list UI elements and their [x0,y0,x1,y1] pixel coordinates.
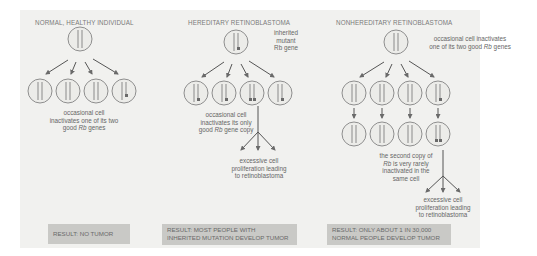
result-line: RESULT: MOST PEOPLE WITH [167,226,292,234]
label-line: inactivated in the [374,167,438,175]
hereditary-daughter-cells-icon [184,81,292,105]
normal-title: NORMAL, HEALTHY INDIVIDUAL [35,19,134,26]
result-line: RESULT: NO TUMOR [53,227,125,241]
inherited-mutant-gene-label: inherited mutant Rb gene [266,29,306,52]
label-line: inherited [266,29,306,37]
hereditary-outcome: excessive cell proliferation leading to … [226,157,292,180]
result-line: RESULT: ONLY ABOUT 1 IN 30,000 [332,226,446,234]
hereditary-title: HEREDITARY RETINOBLASTOMA [188,19,290,26]
hereditary-annotation: occasional cell inactivates its only goo… [196,111,256,134]
label-line: proliferation leading [226,165,292,173]
label-text: good [63,124,79,131]
mutation-mark-icon [237,47,240,50]
nonhereditary-title: NONHEREDITARY RETINOBLASTOMA [336,19,452,26]
result-line: INHERITED MUTATION DEVELOP TUMOR [167,234,292,242]
label-text: genes [492,43,511,50]
normal-parent-cell-icon [68,27,92,51]
label-line: same cell [374,175,438,183]
label-line: good Rb genes [40,124,128,132]
label-line: to retinoblastoma [410,211,476,219]
label-line: Rb is very rarely [374,160,438,168]
label-text: one of its two good [429,43,484,50]
result-nonhereditary: RESULT: ONLY ABOUT 1 IN 30,000 NORMAL PE… [327,224,451,245]
gene-name: Rb [214,126,222,133]
label-line: excessive cell [226,157,292,165]
label-line: good Rb gene copy [196,126,256,134]
normal-daughter-cells-icon [28,79,136,103]
label-line: inactivates its only [196,119,256,127]
nonhereditary-second-daughter-cells-icon [342,122,450,146]
label-text: good [199,126,215,133]
label-line: proliferation leading [410,204,476,212]
label-line: to retinoblastoma [226,172,292,180]
mutation-mark-icon [125,94,128,97]
label-line: mutant [266,37,306,45]
mutation-mark-icon [439,98,442,101]
result-line: NORMAL PEOPLE DEVELOP TUMOR [332,234,446,242]
label-line: occasional cell [196,111,256,119]
normal-division-arrows-icon [46,59,118,74]
hereditary-division-arrows-icon [202,61,274,77]
nonhereditary-division-arrows-icon [360,61,434,77]
label-line: excessive cell [410,196,476,204]
hereditary-parent-cell-icon [224,30,248,54]
result-hereditary: RESULT: MOST PEOPLE WITH INHERITED MUTAT… [162,224,297,245]
nonhereditary-outcome: excessive cell proliferation leading to … [410,196,476,219]
label-text: gene copy [223,126,254,133]
result-normal: RESULT: NO TUMOR [48,224,130,244]
label-line: occasional cell inactivates [420,35,520,43]
nonhereditary-first-daughter-cells-icon [342,81,450,105]
label-line: occasional cell [40,109,128,117]
nonhereditary-top-annotation: occasional cell inactivates one of its t… [420,35,520,50]
label-text: is very rarely [391,160,428,167]
nonhereditary-growth-arrows-icon [354,108,438,118]
label-line: one of its two good Rb genes [420,43,520,51]
label-line: the second copy of [374,152,438,160]
nonhereditary-parent-cell-icon [384,30,408,54]
label-line: inactivates one of its two [40,117,128,125]
second-copy-annotation: the second copy of Rb is very rarely ina… [374,152,438,182]
label-text: genes [86,124,105,131]
normal-annotation: occasional cell inactivates one of its t… [40,109,128,132]
gene-name: Rb [484,43,492,50]
label-line: Rb gene [266,44,306,52]
